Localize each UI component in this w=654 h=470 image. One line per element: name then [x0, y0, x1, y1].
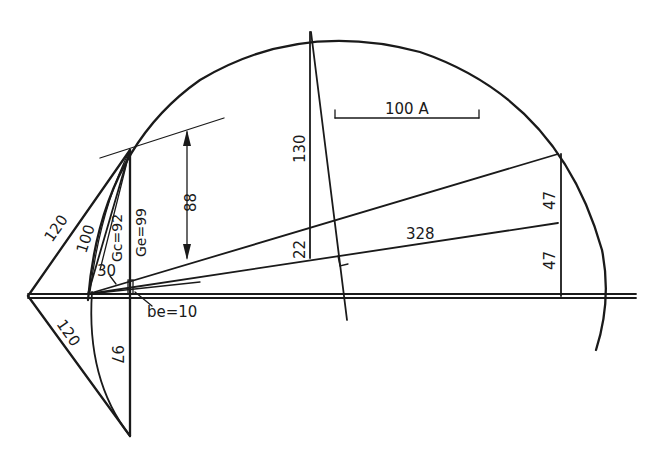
- circle-diagram: 120 120 100 30 Gc=92 Ge=99 88 97 be=10 1…: [0, 0, 654, 470]
- label-lower-120: 120: [53, 316, 84, 350]
- label-97: 97: [108, 345, 126, 364]
- label-gc: Gc=92: [109, 214, 125, 262]
- ray-short: [88, 282, 200, 294]
- label-30: 30: [97, 262, 116, 280]
- label-47-upper: 47: [541, 191, 559, 210]
- label-328: 328: [406, 225, 435, 243]
- perpendicular-line: [311, 32, 347, 320]
- label-88: 88: [182, 193, 200, 212]
- chord-lower-120: [28, 296, 130, 436]
- label-ge: Ge=99: [133, 208, 149, 257]
- label-22: 22: [291, 240, 309, 259]
- label-be: be=10: [147, 303, 197, 321]
- tangent-line: [100, 118, 224, 158]
- label-scale: 100 A: [385, 100, 429, 118]
- ray-328: [88, 223, 558, 294]
- label-47-lower: 47: [541, 251, 559, 270]
- ray-upper: [88, 154, 558, 294]
- baseline: [28, 294, 636, 298]
- label-130: 130: [291, 134, 309, 163]
